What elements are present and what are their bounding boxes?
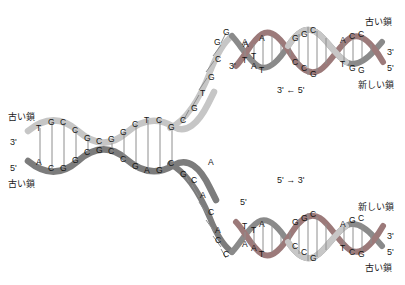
- base-letter: G: [72, 156, 79, 165]
- base-letter: A: [200, 191, 206, 200]
- base-letter: T: [259, 250, 264, 259]
- base-letter: C: [349, 32, 355, 41]
- dna-replication-figure: 古い鎖 3' 5' 古い鎖 3' 5' 古い鎖 3' 5' 新しい鎖 3' ← …: [0, 0, 405, 285]
- base-letter: T: [36, 124, 41, 133]
- label-arrow-top: 3' ← 5': [277, 86, 304, 95]
- base-letter: C: [301, 248, 307, 257]
- base-letter: C: [180, 116, 186, 125]
- base-letter: C: [72, 126, 78, 135]
- base-letter: C: [358, 214, 364, 223]
- base-letter: C: [156, 116, 162, 125]
- base-letter: G: [156, 166, 163, 175]
- base-letter: G: [96, 146, 103, 155]
- base-letter: G: [358, 66, 365, 75]
- base-letter: C: [292, 58, 298, 67]
- base-letter: T: [340, 244, 345, 253]
- base-letter: G: [180, 170, 187, 179]
- base-letter: A: [340, 36, 346, 45]
- label-top-right-new: 新しい鎖: [358, 81, 394, 90]
- base-letter: C: [310, 210, 316, 219]
- base-letter: G: [208, 73, 215, 82]
- label-arrow-bottom: 5' → 3': [277, 176, 304, 185]
- base-letter: C: [120, 155, 126, 164]
- base-letter: A: [340, 220, 346, 229]
- label-bottom-right-5prime: 5': [387, 248, 394, 257]
- base-letter: G: [108, 135, 115, 144]
- base-letter: G: [349, 64, 356, 73]
- base-letter: C: [48, 164, 54, 173]
- base-letter: C: [215, 236, 221, 245]
- label-fork-bottom-5prime: 5': [240, 198, 247, 207]
- base-letter: T: [242, 222, 247, 231]
- label-bottom-right-old: 古い鎖: [365, 264, 392, 273]
- base-letter: T: [340, 60, 345, 69]
- base-letter: G: [214, 38, 221, 47]
- base-letter: G: [349, 216, 356, 225]
- base-letter: C: [108, 147, 114, 156]
- base-letter: G: [84, 134, 91, 143]
- base-letter: C: [208, 208, 214, 217]
- label-bottom-right-new: 新しい鎖: [358, 203, 394, 212]
- base-letter: G: [120, 128, 127, 137]
- base-letter: G: [310, 254, 317, 263]
- label-top-right-3prime: 3': [387, 48, 394, 57]
- base-letter: C: [349, 248, 355, 257]
- base-letter: A: [36, 158, 42, 167]
- base-letter: T: [144, 116, 149, 125]
- base-letter: C: [191, 176, 197, 185]
- base-letter: C: [358, 30, 364, 39]
- label-top-right-5prime: 5': [387, 64, 394, 73]
- base-letter: T: [259, 66, 264, 75]
- base-letter: C: [301, 64, 307, 73]
- base-letter: C: [168, 159, 174, 168]
- base-letter: G: [191, 104, 198, 113]
- label-top-right-old: 古い鎖: [365, 18, 392, 27]
- label-parent-left-5prime: 5': [10, 164, 17, 173]
- base-letter: A: [242, 240, 248, 249]
- base-letter: C: [132, 120, 138, 129]
- base-letter: C: [60, 118, 66, 127]
- base-letter: G: [48, 118, 55, 127]
- base-letter: T: [251, 226, 256, 235]
- base-letter: A: [251, 62, 257, 71]
- label-parent-bottom-left: 古い鎖: [8, 180, 35, 189]
- base-letter: G: [60, 164, 67, 173]
- base-letter: G: [223, 28, 230, 37]
- base-letter: G: [292, 34, 299, 43]
- base-letter: A: [144, 166, 150, 175]
- base-letter: C: [215, 55, 221, 64]
- label-bottom-right-3prime: 3': [387, 232, 394, 241]
- base-letter: C: [223, 250, 229, 259]
- base-letter: A: [208, 158, 214, 167]
- base-letter: C: [292, 242, 298, 251]
- label-parent-top-left: 古い鎖: [8, 113, 35, 122]
- base-letter: A: [215, 226, 221, 235]
- base-letter: A: [259, 220, 265, 229]
- label-fork-top-3prime: 3': [229, 62, 236, 71]
- base-letter: C: [84, 148, 90, 157]
- base-letter: T: [251, 52, 256, 61]
- base-letter: A: [259, 34, 265, 43]
- base-letter: G: [292, 218, 299, 227]
- base-letter: T: [200, 89, 205, 98]
- base-letter: G: [358, 250, 365, 259]
- base-letter: A: [251, 244, 257, 253]
- base-letter: C: [310, 26, 316, 35]
- base-letter: G: [301, 214, 308, 223]
- base-letter: G: [310, 70, 317, 79]
- label-parent-left-3prime: 3': [10, 138, 17, 147]
- base-letter: G: [132, 162, 139, 171]
- base-letter: G: [168, 123, 175, 132]
- base-letter: T: [242, 56, 247, 65]
- base-letter: G: [301, 30, 308, 39]
- base-letter: A: [242, 38, 248, 47]
